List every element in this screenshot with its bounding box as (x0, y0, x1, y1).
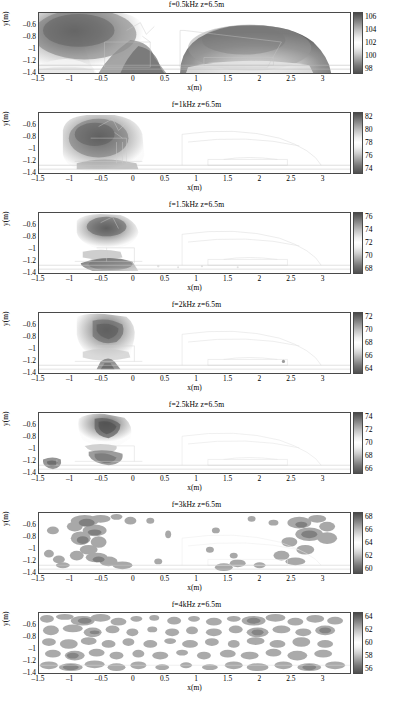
colorbar-tick: 60 (365, 639, 373, 647)
colorbar-tick: 66 (365, 526, 373, 534)
panel-title: f=2.5kHz z=6.5m (0, 400, 393, 409)
colorbar-tick: 64 (365, 365, 373, 373)
colorbar-tick: 62 (365, 552, 373, 560)
y-axis-ticks: y(m) –0.6 –0.8 –1 –1.2 –1.4 (0, 500, 36, 580)
plot-area (38, 212, 351, 274)
colorbar-tick: 72 (365, 426, 373, 434)
x-tick: 1 (194, 675, 198, 683)
colorbar-tick: 60 (365, 565, 373, 573)
plot-area (38, 112, 351, 174)
panel-title: f=4kHz z=6.5m (0, 600, 393, 609)
colorbar-tick: 74 (365, 226, 373, 234)
x-tick: 2 (257, 575, 261, 583)
x-tick: 2.5 (286, 375, 295, 383)
x-tick: 1 (194, 75, 198, 83)
heatmap-canvas (39, 13, 350, 73)
x-tick: 0 (131, 375, 135, 383)
colorbar-tick: 66 (365, 352, 373, 360)
panel-1: f=1kHz z=6.5m y(m) –0.6 –0.8 –1 –1.2 –1.… (0, 100, 393, 202)
x-tick: 3 (321, 375, 325, 383)
x-tick: 0.5 (160, 275, 169, 283)
x-tick: 0 (131, 75, 135, 83)
y-tick: –1.2 (2, 57, 36, 64)
colorbar-ticks: 60 62 64 66 68 (364, 508, 393, 578)
x-tick: 0 (131, 275, 135, 283)
panel-title: f=0.5kHz z=6.5m (0, 0, 393, 9)
x-axis-label: x(m) (38, 684, 351, 692)
y-tick: –1.2 (2, 357, 36, 364)
x-tick: 0.5 (160, 475, 169, 483)
x-tick: –1.5 (32, 175, 45, 183)
colorbar-ticks: 98 100 102 104 106 (364, 8, 393, 78)
plot-area (38, 312, 351, 374)
colorbar-tick: 98 (365, 65, 373, 73)
colorbar-tick: 64 (365, 539, 373, 547)
x-tick: 1 (194, 475, 198, 483)
x-tick: 1.5 (223, 675, 232, 683)
y-tick: –0.6 (2, 521, 36, 528)
x-tick: 1.5 (223, 175, 232, 183)
colorbar-tick: 72 (365, 239, 373, 247)
y-tick: –0.6 (2, 121, 36, 128)
colorbar-tick: 68 (365, 452, 373, 460)
colorbar (353, 612, 363, 674)
colorbar-tick: 106 (365, 13, 376, 21)
x-tick: 2 (257, 175, 261, 183)
heatmap-canvas (39, 613, 350, 673)
y-tick: –0.6 (2, 621, 36, 628)
x-axis-label: x(m) (38, 384, 351, 392)
x-tick: –1.5 (32, 275, 45, 283)
x-tick: 2.5 (286, 75, 295, 83)
x-tick: 1 (194, 575, 198, 583)
colorbar-tick: 82 (365, 113, 373, 121)
colorbar-tick: 104 (365, 26, 376, 34)
x-tick: 0 (131, 475, 135, 483)
figure-panel-grid: f=0.5kHz z=6.5m y(m) –0.6 –0.8 –1 –1.2 –… (0, 0, 393, 714)
y-tick: –0.6 (2, 321, 36, 328)
x-tick: 1 (194, 375, 198, 383)
colorbar-ticks: 64 66 68 70 72 (364, 308, 393, 378)
y-axis-ticks: y(m) –0.6 –0.8 –1 –1.2 –1.4 (0, 400, 36, 480)
x-tick: 1.5 (223, 275, 232, 283)
colorbar-ticks: 68 70 72 74 76 (364, 208, 393, 278)
x-tick: 1.5 (223, 75, 232, 83)
x-tick: 2.5 (286, 475, 295, 483)
x-tick: 2 (257, 375, 261, 383)
colorbar-ticks: 74 76 78 80 82 (364, 108, 393, 178)
y-tick: –1 (2, 545, 36, 552)
x-tick: –1.5 (32, 375, 45, 383)
x-tick: 1 (194, 175, 198, 183)
y-tick: –1.2 (2, 557, 36, 564)
x-tick: 0 (131, 175, 135, 183)
y-tick: –1 (2, 45, 36, 52)
colorbar-tick: 70 (365, 252, 373, 260)
colorbar-tick: 70 (365, 439, 373, 447)
x-tick: –0.5 (95, 375, 108, 383)
x-tick: –1 (66, 475, 73, 483)
panel-6: f=4kHz z=6.5m y(m) –0.6 –0.8 –1 –1.2 –1.… (0, 600, 393, 702)
colorbar-tick: 102 (365, 39, 376, 47)
colorbar-tick: 66 (365, 465, 373, 473)
x-tick: 2.5 (286, 575, 295, 583)
panel-title: f=2kHz z=6.5m (0, 300, 393, 309)
heatmap-canvas (39, 413, 350, 473)
x-tick: 2 (257, 75, 261, 83)
heatmap-canvas (39, 513, 350, 573)
x-tick: –1 (66, 175, 73, 183)
x-tick: –1.5 (32, 475, 45, 483)
x-tick: 0 (131, 575, 135, 583)
y-tick: –0.8 (2, 233, 36, 240)
y-tick: –1 (2, 145, 36, 152)
x-tick: –0.5 (95, 275, 108, 283)
x-tick: 2.5 (286, 675, 295, 683)
colorbar-tick: 74 (365, 413, 373, 421)
x-tick: 2 (257, 675, 261, 683)
x-tick: –1 (66, 375, 73, 383)
colorbar-tick: 76 (365, 213, 373, 221)
plot-area (38, 412, 351, 474)
x-tick: 2 (257, 475, 261, 483)
panel-2: f=1.5kHz z=6.5m y(m) –0.6 –0.8 –1 –1.2 –… (0, 200, 393, 302)
y-tick: –1.2 (2, 457, 36, 464)
x-tick: 3 (321, 475, 325, 483)
colorbar (353, 512, 363, 574)
